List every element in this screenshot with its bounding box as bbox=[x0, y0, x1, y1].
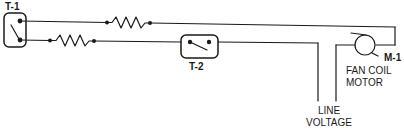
m1-label: M-1 bbox=[384, 53, 401, 63]
t2-terminal-right bbox=[207, 40, 211, 44]
bottom-wire-segment-2 bbox=[94, 41, 181, 42]
bottom-resistor-node-right bbox=[92, 39, 96, 43]
t1-label: T-1 bbox=[5, 2, 19, 12]
t1-switch-blade bbox=[11, 25, 19, 39]
motor-description-line2: MOTOR bbox=[346, 78, 383, 88]
bottom-resistor-node-left bbox=[48, 39, 52, 43]
t2-terminal-left bbox=[188, 40, 192, 44]
motor-m1-circle bbox=[355, 35, 375, 55]
top-resistor-node-right bbox=[148, 21, 152, 25]
top-resistor-node-left bbox=[105, 21, 109, 25]
motor-description-line1: FAN COIL bbox=[346, 66, 392, 76]
motor-m1-tick-bottom bbox=[372, 53, 378, 56]
bottom-wire-segment-1 bbox=[20, 40, 50, 41]
t2-switch-blade bbox=[190, 42, 207, 50]
top-wire-segment-2 bbox=[150, 23, 395, 27]
t2-label: T-2 bbox=[189, 62, 203, 72]
t1-box bbox=[4, 13, 26, 47]
bottom-resistor bbox=[50, 35, 94, 46]
top-wire-segment-1 bbox=[20, 21, 107, 23]
motor-m1-tick-top bbox=[351, 33, 366, 35]
t1-terminal-top bbox=[18, 19, 23, 24]
t1-terminal-bottom bbox=[18, 38, 23, 43]
line-voltage-line2: VOLTAGE bbox=[303, 118, 355, 128]
line-voltage-line1: LINE bbox=[314, 106, 344, 116]
top-resistor bbox=[107, 17, 150, 28]
bottom-wire-segment-3 bbox=[218, 42, 318, 43]
